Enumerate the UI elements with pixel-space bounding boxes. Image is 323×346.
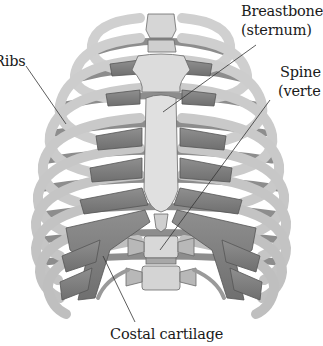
label-spine: Spine bbox=[280, 64, 321, 81]
label-ribs: Ribs bbox=[0, 53, 25, 70]
label-costal-cartilage: Costal cartilage bbox=[110, 326, 223, 343]
spine-vertebrae bbox=[126, 236, 196, 290]
costal-cartilage-leader bbox=[103, 256, 135, 322]
sternum-body bbox=[144, 95, 178, 212]
label-vertebrae: (verte bbox=[278, 83, 321, 100]
label-sternum: (sternum) bbox=[241, 22, 312, 39]
label-breastbone: Breastbone bbox=[241, 3, 323, 20]
manubrium bbox=[146, 14, 176, 38]
